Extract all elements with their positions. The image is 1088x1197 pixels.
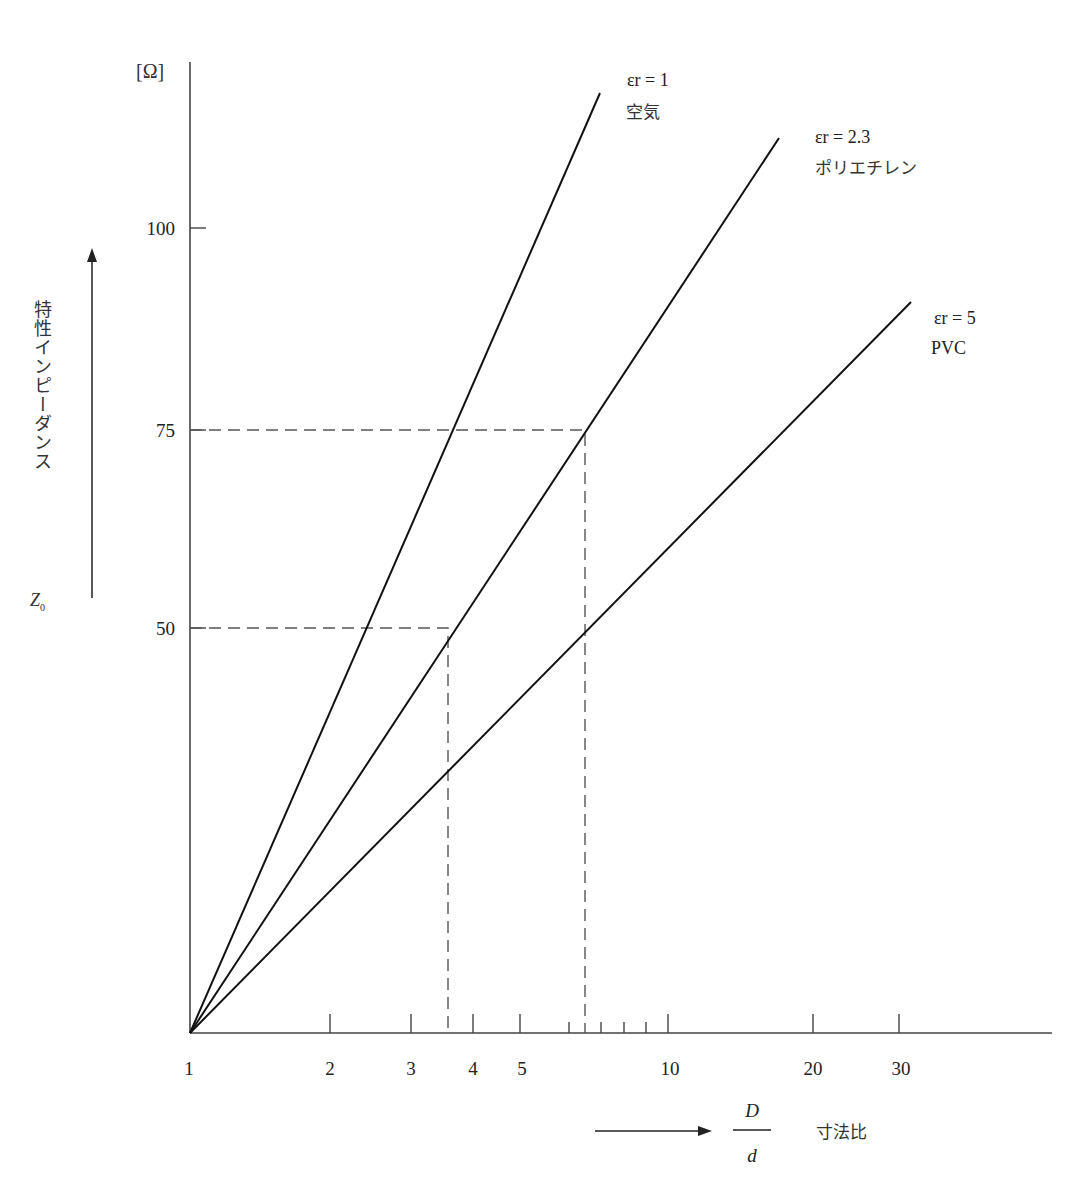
x-tick-30: 30 bbox=[892, 1058, 911, 1079]
label-eps2-3: εr = 2.3 bbox=[815, 127, 870, 147]
label-pvc: PVC bbox=[931, 338, 966, 358]
x-tick-4: 4 bbox=[468, 1058, 478, 1079]
y-tick-75: 75 bbox=[156, 420, 175, 441]
x-tick-3: 3 bbox=[406, 1058, 416, 1079]
series-line-eps2-3 bbox=[190, 138, 779, 1033]
series-lines bbox=[190, 93, 911, 1033]
x-axis-fraction: D d bbox=[733, 1100, 771, 1166]
series-labels: εr = 1 空気 εr = 2.3 ポリエチレン εr = 5 PVC bbox=[626, 70, 976, 358]
fraction-numerator: D bbox=[744, 1100, 759, 1121]
series-line-eps1 bbox=[190, 93, 600, 1033]
x-axis-title: 寸法比 bbox=[816, 1122, 867, 1142]
y-axis-arrow-icon bbox=[87, 248, 97, 598]
x-tick-20: 20 bbox=[804, 1058, 823, 1079]
y-tick-100: 100 bbox=[147, 218, 176, 239]
x-axis-arrow-icon bbox=[595, 1126, 712, 1136]
label-polyethylene: ポリエチレン bbox=[815, 158, 917, 178]
y-ticks bbox=[190, 228, 206, 628]
series-line-eps5 bbox=[190, 302, 911, 1033]
x-tick-10: 10 bbox=[661, 1058, 680, 1079]
x-ticks bbox=[330, 1014, 899, 1033]
characteristic-impedance-chart: 100 75 50 1 2 3 4 5 10 20 30 ε bbox=[0, 0, 1088, 1197]
label-air: 空気 bbox=[626, 102, 660, 122]
x-tick-5: 5 bbox=[517, 1058, 527, 1079]
x-tick-1: 1 bbox=[184, 1058, 194, 1079]
y-tick-50: 50 bbox=[156, 618, 175, 639]
x-tick-2: 2 bbox=[325, 1058, 335, 1079]
x-tick-labels: 1 2 3 4 5 10 20 30 bbox=[184, 1058, 910, 1079]
label-eps5: εr = 5 bbox=[934, 308, 976, 328]
label-eps1: εr = 1 bbox=[627, 70, 669, 90]
guide-50 bbox=[190, 628, 448, 1033]
y-tick-labels: 100 75 50 bbox=[147, 218, 176, 639]
fraction-denominator: d bbox=[747, 1145, 757, 1166]
